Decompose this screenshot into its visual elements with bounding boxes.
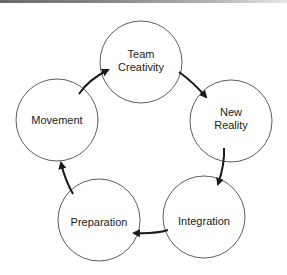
arrow-integration-to-preparation	[134, 230, 168, 233]
node-label: Team	[128, 48, 155, 60]
arrow-preparation-to-movement	[61, 163, 73, 194]
node-label: Creativity	[118, 61, 164, 73]
node-preparation: Preparation	[58, 179, 140, 261]
node-label: New	[220, 106, 242, 118]
node-label: Reality	[214, 119, 248, 131]
node-label: Movement	[31, 114, 82, 126]
node-movement: Movement	[16, 79, 98, 161]
cycle-diagram: Team Creativity New Reality Integration …	[0, 0, 287, 275]
node-label: Preparation	[71, 216, 128, 228]
arrow-team-creativity-to-new-reality	[179, 72, 206, 97]
node-integration: Integration	[163, 176, 245, 258]
node-team-creativity: Team Creativity	[100, 21, 182, 103]
node-label: Integration	[178, 215, 230, 227]
